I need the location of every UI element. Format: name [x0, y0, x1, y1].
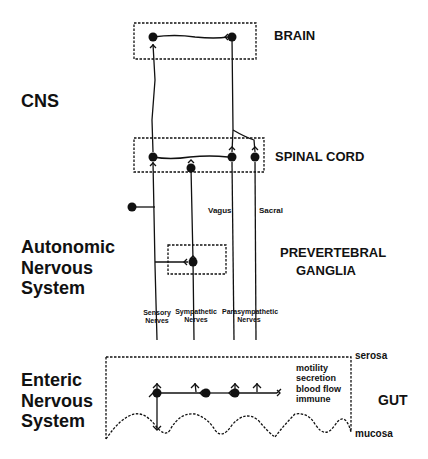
vagus-label: Vagus	[208, 206, 232, 215]
brain-neuron-left	[149, 33, 158, 42]
spinal-neuron-1	[149, 153, 158, 162]
parasympathetic-label-2: Nerves	[222, 316, 276, 324]
ens-label-line-2: Nervous	[21, 391, 93, 412]
gut-function-item: secretion	[296, 373, 341, 383]
prevertebral-label-2: GANGLIA	[296, 264, 356, 279]
gut-function-item: immune	[296, 394, 341, 404]
gut-function-item: motility	[296, 363, 341, 373]
spinal-neuron-4	[251, 153, 260, 162]
ans-label-line-2: Nervous	[21, 258, 115, 279]
sensory-nerves-label: Sensory Nerves	[140, 309, 174, 325]
ens-label-line-3: System	[21, 411, 93, 432]
serosa-label: serosa	[355, 350, 387, 362]
sensory-cell-body	[128, 203, 137, 212]
ganglion-neuron	[189, 258, 198, 267]
spinal-neuron-3	[228, 153, 237, 162]
gut-label: GUT	[378, 392, 408, 408]
prevertebral-label-1: PREVERTEBRAL	[280, 246, 386, 261]
parasympathetic-nerves-label: Parasympathetic Nerves	[222, 308, 276, 324]
brain-label: BRAIN	[274, 29, 315, 44]
gut-functions-list: motility secretion blood flow immune	[296, 363, 341, 404]
sympathetic-label-2: Nerves	[174, 316, 218, 324]
enteric-neuron-3	[231, 389, 240, 398]
ganglia-box	[168, 245, 226, 274]
sacral-label: Sacral	[259, 206, 283, 215]
ans-label-line-1: Autonomic	[21, 237, 115, 258]
mucosa-label: mucosa	[355, 428, 393, 440]
sympathetic-label-1: Sympathetic	[174, 308, 218, 316]
cns-label: CNS	[21, 91, 59, 112]
mucosa-wave	[106, 414, 351, 439]
sympathetic-nerves-label: Sympathetic Nerves	[174, 308, 218, 324]
spinal-neuron-2	[187, 164, 196, 173]
ens-label-line-1: Enteric	[21, 370, 93, 391]
gut-function-item: blood flow	[296, 384, 341, 394]
enteric-neuron-1	[153, 389, 162, 398]
enteric-neuron-2	[202, 389, 211, 398]
ens-label: Enteric Nervous System	[21, 370, 93, 432]
ans-label: Autonomic Nervous System	[21, 237, 115, 299]
parasympathetic-label-1: Parasympathetic	[222, 308, 276, 316]
brain-neuron-right	[228, 33, 237, 42]
sensory-label-2: Nerves	[140, 317, 174, 325]
spinal-cord-label: SPINAL CORD	[275, 150, 364, 165]
sensory-label-1: Sensory	[140, 309, 174, 317]
ans-label-line-3: System	[21, 278, 115, 299]
